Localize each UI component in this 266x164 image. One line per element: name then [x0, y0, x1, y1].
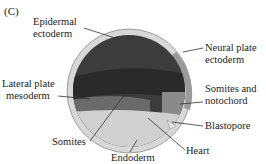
label-somites: Somites [52, 136, 86, 147]
label-heart: Heart [186, 145, 209, 156]
label-epidermal-line2: ectoderm [33, 28, 72, 39]
label-somnoto-line1: Somites and [205, 83, 257, 94]
panel-label: (C) [4, 6, 19, 17]
label-blastopore: Blastopore [205, 120, 251, 131]
label-epidermal-line1: Epidermal [33, 16, 77, 27]
label-somnoto-line2: notochord [205, 95, 248, 106]
label-endoderm: Endoderm [111, 152, 155, 163]
label-neural-line1: Neural plate [205, 42, 257, 53]
leader-neural [183, 48, 203, 52]
label-lateral-line2: mesoderm [6, 90, 50, 101]
label-lateral-line1: Lateral plate [2, 78, 55, 89]
label-neural-line2: ectoderm [205, 54, 244, 65]
